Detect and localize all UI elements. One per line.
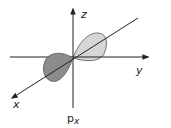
orbital-caption: px [67,112,80,126]
x-axis [12,18,138,98]
x-axis-label: x [12,98,20,111]
caption-main: p [67,112,74,125]
caption-subscript: x [73,116,80,126]
z-axis-label: z [80,8,87,21]
dark-lobe [43,53,73,81]
px-orbital-diagram: z y x px [0,0,171,128]
y-axis-label: y [135,64,143,77]
